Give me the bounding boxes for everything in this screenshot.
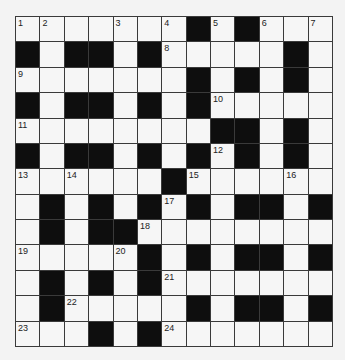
grid-cell[interactable] bbox=[162, 245, 185, 269]
grid-cell[interactable] bbox=[309, 271, 332, 295]
grid-cell[interactable] bbox=[260, 322, 283, 346]
grid-cell[interactable] bbox=[187, 119, 210, 143]
grid-cell[interactable] bbox=[211, 245, 234, 269]
grid-cell[interactable] bbox=[284, 296, 307, 320]
grid-cell[interactable] bbox=[162, 220, 185, 244]
grid-cell[interactable] bbox=[187, 42, 210, 66]
grid-cell[interactable] bbox=[187, 322, 210, 346]
grid-cell[interactable] bbox=[211, 42, 234, 66]
grid-cell[interactable] bbox=[16, 195, 39, 219]
grid-cell[interactable] bbox=[40, 42, 63, 66]
grid-cell[interactable] bbox=[40, 245, 63, 269]
grid-cell[interactable] bbox=[235, 93, 258, 117]
grid-cell[interactable]: 1 bbox=[16, 17, 39, 41]
grid-cell[interactable] bbox=[40, 144, 63, 168]
grid-cell[interactable]: 17 bbox=[162, 195, 185, 219]
grid-cell[interactable] bbox=[16, 296, 39, 320]
grid-cell[interactable]: 7 bbox=[309, 17, 332, 41]
grid-cell[interactable] bbox=[65, 245, 88, 269]
grid-cell[interactable] bbox=[114, 42, 137, 66]
grid-cell[interactable] bbox=[89, 17, 112, 41]
grid-cell[interactable] bbox=[260, 42, 283, 66]
grid-cell[interactable] bbox=[65, 17, 88, 41]
grid-cell[interactable] bbox=[89, 296, 112, 320]
grid-cell[interactable] bbox=[284, 322, 307, 346]
grid-cell[interactable] bbox=[65, 220, 88, 244]
grid-cell[interactable] bbox=[211, 169, 234, 193]
grid-cell[interactable] bbox=[162, 119, 185, 143]
grid-cell[interactable] bbox=[114, 144, 137, 168]
grid-cell[interactable] bbox=[40, 322, 63, 346]
grid-cell[interactable] bbox=[89, 245, 112, 269]
grid-cell[interactable] bbox=[138, 17, 161, 41]
grid-cell[interactable]: 19 bbox=[16, 245, 39, 269]
grid-cell[interactable] bbox=[138, 296, 161, 320]
grid-cell[interactable] bbox=[284, 245, 307, 269]
grid-cell[interactable]: 16 bbox=[284, 169, 307, 193]
grid-cell[interactable]: 20 bbox=[114, 245, 137, 269]
grid-cell[interactable]: 9 bbox=[16, 68, 39, 92]
grid-cell[interactable] bbox=[309, 42, 332, 66]
grid-cell[interactable] bbox=[89, 169, 112, 193]
grid-cell[interactable] bbox=[284, 220, 307, 244]
grid-cell[interactable] bbox=[211, 322, 234, 346]
grid-cell[interactable]: 10 bbox=[211, 93, 234, 117]
grid-cell[interactable] bbox=[284, 93, 307, 117]
grid-cell[interactable] bbox=[138, 68, 161, 92]
grid-cell[interactable] bbox=[309, 322, 332, 346]
grid-cell[interactable] bbox=[211, 195, 234, 219]
grid-cell[interactable]: 5 bbox=[211, 17, 234, 41]
grid-cell[interactable] bbox=[114, 271, 137, 295]
grid-cell[interactable] bbox=[65, 68, 88, 92]
grid-cell[interactable] bbox=[114, 169, 137, 193]
grid-cell[interactable]: 12 bbox=[211, 144, 234, 168]
grid-cell[interactable] bbox=[114, 93, 137, 117]
grid-cell[interactable] bbox=[89, 119, 112, 143]
grid-cell[interactable] bbox=[260, 93, 283, 117]
grid-cell[interactable]: 11 bbox=[16, 119, 39, 143]
grid-cell[interactable] bbox=[309, 169, 332, 193]
grid-cell[interactable] bbox=[162, 68, 185, 92]
grid-cell[interactable] bbox=[138, 169, 161, 193]
grid-cell[interactable]: 2 bbox=[40, 17, 63, 41]
grid-cell[interactable] bbox=[16, 220, 39, 244]
grid-cell[interactable] bbox=[40, 93, 63, 117]
grid-cell[interactable] bbox=[235, 322, 258, 346]
grid-cell[interactable] bbox=[114, 68, 137, 92]
grid-cell[interactable] bbox=[162, 93, 185, 117]
grid-cell[interactable] bbox=[260, 68, 283, 92]
grid-cell[interactable] bbox=[235, 42, 258, 66]
grid-cell[interactable] bbox=[40, 68, 63, 92]
grid-cell[interactable] bbox=[65, 271, 88, 295]
grid-cell[interactable] bbox=[235, 271, 258, 295]
grid-cell[interactable]: 8 bbox=[162, 42, 185, 66]
grid-cell[interactable] bbox=[187, 220, 210, 244]
grid-cell[interactable]: 6 bbox=[260, 17, 283, 41]
grid-cell[interactable] bbox=[65, 119, 88, 143]
grid-cell[interactable] bbox=[309, 119, 332, 143]
grid-cell[interactable] bbox=[260, 169, 283, 193]
grid-cell[interactable] bbox=[40, 169, 63, 193]
grid-cell[interactable] bbox=[114, 195, 137, 219]
grid-cell[interactable]: 15 bbox=[187, 169, 210, 193]
grid-cell[interactable] bbox=[211, 220, 234, 244]
grid-cell[interactable] bbox=[284, 195, 307, 219]
grid-cell[interactable] bbox=[187, 271, 210, 295]
grid-cell[interactable] bbox=[235, 169, 258, 193]
grid-cell[interactable]: 3 bbox=[114, 17, 137, 41]
grid-cell[interactable] bbox=[260, 220, 283, 244]
grid-cell[interactable]: 22 bbox=[65, 296, 88, 320]
grid-cell[interactable] bbox=[65, 322, 88, 346]
grid-cell[interactable] bbox=[40, 119, 63, 143]
grid-cell[interactable]: 14 bbox=[65, 169, 88, 193]
grid-cell[interactable] bbox=[211, 296, 234, 320]
grid-cell[interactable]: 13 bbox=[16, 169, 39, 193]
grid-cell[interactable] bbox=[114, 296, 137, 320]
grid-cell[interactable] bbox=[235, 220, 258, 244]
grid-cell[interactable] bbox=[162, 296, 185, 320]
grid-cell[interactable] bbox=[284, 17, 307, 41]
grid-cell[interactable] bbox=[138, 119, 161, 143]
grid-cell[interactable] bbox=[309, 220, 332, 244]
grid-cell[interactable] bbox=[284, 271, 307, 295]
grid-cell[interactable]: 24 bbox=[162, 322, 185, 346]
